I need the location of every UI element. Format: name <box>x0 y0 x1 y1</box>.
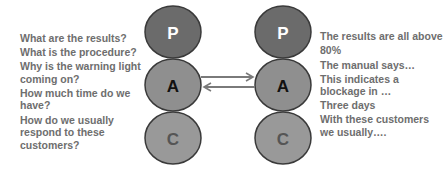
right-ego-states: P A C <box>255 6 311 164</box>
right-child-label: C <box>277 130 289 149</box>
arrow-right-icon <box>201 73 253 81</box>
left-child-label: C <box>167 130 179 149</box>
right-adult-label: A <box>277 77 289 96</box>
left-parent-label: P <box>167 24 178 43</box>
left-ego-states: P A C <box>145 6 201 164</box>
transaction-arrows <box>201 73 255 91</box>
answer-2: The manual says… <box>320 59 445 72</box>
answer-5: With these customers we usually…. <box>320 113 445 138</box>
answer-4: Three days <box>320 99 445 112</box>
answer-1: The results are all above 80% <box>320 29 445 57</box>
right-answers: The results are all above 80% The manual… <box>320 29 445 139</box>
arrow-left-icon <box>204 83 255 91</box>
left-adult-label: A <box>167 77 179 96</box>
answer-3: This indicates a blockage in … <box>320 73 445 98</box>
right-parent-label: P <box>277 24 288 43</box>
